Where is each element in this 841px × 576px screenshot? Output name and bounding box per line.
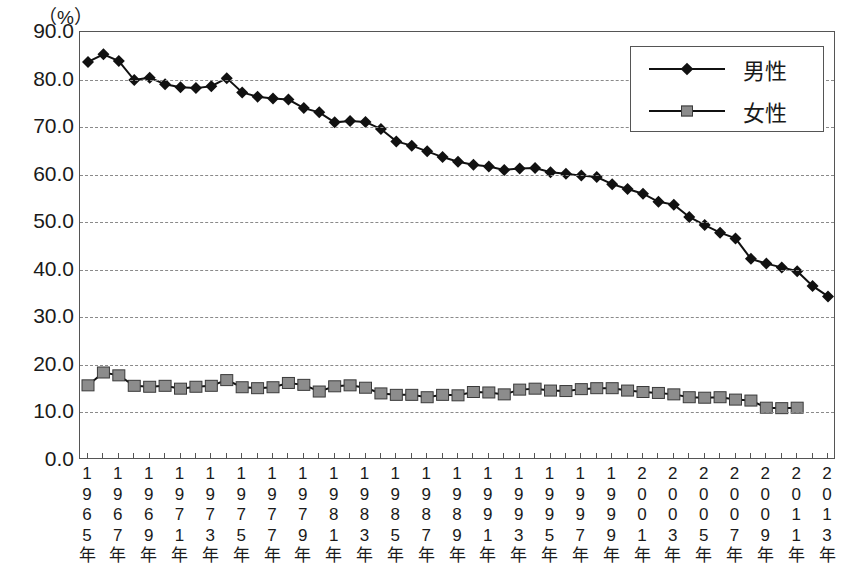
data-point-marker-diamond — [622, 183, 634, 195]
x-axis-tick-mark — [812, 453, 813, 459]
gridline — [80, 270, 834, 271]
legend-marker-diamond-icon — [645, 57, 729, 81]
x-axis-tick-mark — [411, 453, 412, 459]
x-axis-tick-label: 2 0 0 9 年 — [756, 464, 774, 567]
x-axis-tick-mark — [796, 453, 797, 459]
x-axis-tick-mark — [719, 453, 720, 459]
data-point-marker-square — [452, 390, 464, 401]
data-point-marker-diamond — [822, 290, 834, 302]
x-axis-tick-mark — [257, 453, 258, 459]
x-axis-tick-mark — [442, 453, 443, 459]
data-point-marker-square — [205, 380, 217, 391]
x-axis-tick-mark — [565, 453, 566, 459]
x-axis-tick-mark — [87, 453, 88, 459]
y-axis-tick-label: 90.0 — [2, 20, 74, 41]
legend-label-male: 男性 — [743, 53, 787, 85]
x-axis-tick-mark — [395, 453, 396, 459]
x-axis-tick-labels: 1 9 6 5 年1 9 6 7 年1 9 6 9 年1 9 7 1 年1 9 … — [79, 464, 835, 576]
y-axis-tick-label: 60.0 — [2, 163, 74, 184]
chart-container: （%） 0.010.020.030.040.050.060.070.080.09… — [0, 0, 841, 576]
data-point-marker-square — [375, 388, 387, 399]
data-point-marker-square — [144, 381, 156, 392]
data-point-marker-square — [159, 380, 171, 391]
x-axis-tick-mark — [226, 453, 227, 459]
data-point-marker-square — [313, 386, 325, 397]
x-axis-tick-mark — [503, 453, 504, 459]
data-point-marker-diamond — [190, 82, 202, 94]
gridline — [80, 317, 834, 318]
data-point-marker-diamond — [82, 56, 94, 68]
data-point-marker-square — [560, 386, 572, 397]
data-point-marker-diamond — [545, 166, 557, 178]
data-point-marker-square — [421, 392, 433, 403]
x-axis-tick-label: 1 9 9 9 年 — [602, 464, 620, 567]
data-point-marker-square — [236, 382, 248, 393]
data-point-marker-diamond — [267, 93, 279, 105]
x-axis-tick-label: 1 9 8 1 年 — [325, 464, 343, 567]
x-axis-tick-label: 2 0 1 1 年 — [787, 464, 805, 567]
data-point-marker-square — [652, 387, 664, 398]
x-axis-tick-mark — [534, 453, 535, 459]
x-axis-tick-mark — [704, 453, 705, 459]
x-axis-tick-mark — [611, 453, 612, 459]
x-axis-tick-mark — [657, 453, 658, 459]
y-axis-tick-label: 50.0 — [2, 210, 74, 231]
data-point-marker-square — [483, 387, 495, 398]
x-axis-tick-marks — [79, 453, 835, 459]
x-axis-tick-mark — [318, 453, 319, 459]
x-axis-tick-label: 2 0 0 1 年 — [633, 464, 651, 567]
x-axis-tick-mark — [688, 453, 689, 459]
x-axis-tick-mark — [180, 453, 181, 459]
data-point-marker-diamond — [760, 258, 772, 270]
data-point-marker-square — [745, 395, 757, 406]
data-point-marker-diamond — [514, 162, 526, 174]
data-point-marker-square — [406, 389, 418, 400]
x-axis-tick-mark — [519, 453, 520, 459]
data-point-marker-square — [221, 375, 233, 386]
data-point-marker-diamond — [606, 178, 618, 190]
chart-legend: 男性 女性 — [630, 46, 824, 132]
x-axis-tick-mark — [102, 453, 103, 459]
x-axis-tick-label: 2 0 0 7 年 — [726, 464, 744, 567]
data-point-marker-square — [467, 387, 479, 398]
data-point-marker-square — [344, 380, 356, 391]
data-point-marker-diamond — [714, 227, 726, 239]
x-axis-tick-mark — [472, 453, 473, 459]
x-axis-tick-label: 1 9 7 7 年 — [263, 464, 281, 567]
x-axis-tick-mark — [195, 453, 196, 459]
data-point-marker-square — [82, 380, 94, 391]
data-point-marker-diamond — [637, 188, 649, 200]
x-axis-tick-mark — [627, 453, 628, 459]
legend-label-female: 女性 — [743, 95, 787, 127]
data-point-marker-diamond — [776, 261, 788, 273]
x-axis-tick-mark — [118, 453, 119, 459]
data-point-marker-square — [529, 383, 541, 394]
data-point-marker-diamond — [298, 102, 310, 114]
data-point-marker-square — [190, 381, 202, 392]
data-point-marker-square — [390, 389, 402, 400]
x-axis-tick-label: 1 9 7 5 年 — [232, 464, 250, 567]
x-axis-tick-label: 1 9 8 3 年 — [356, 464, 374, 567]
data-point-marker-square — [699, 392, 711, 403]
x-axis-tick-mark — [210, 453, 211, 459]
data-point-marker-diamond — [144, 72, 156, 84]
x-axis-tick-mark — [334, 453, 335, 459]
x-axis-tick-mark — [241, 453, 242, 459]
y-axis-tick-label: 10.0 — [2, 400, 74, 421]
data-point-marker-diamond — [282, 94, 294, 106]
x-axis-tick-mark — [596, 453, 597, 459]
x-axis-tick-mark — [765, 453, 766, 459]
data-point-marker-square — [637, 387, 649, 398]
y-axis-tick-label: 70.0 — [2, 115, 74, 136]
x-axis-tick-mark — [365, 453, 366, 459]
data-point-marker-diamond — [175, 81, 187, 93]
data-point-marker-square — [329, 381, 341, 392]
data-point-marker-diamond — [313, 106, 325, 118]
data-point-marker-diamond — [652, 196, 664, 208]
x-axis-tick-mark — [133, 453, 134, 459]
x-axis-tick-label: 1 9 9 7 年 — [571, 464, 589, 567]
data-point-marker-square — [113, 370, 125, 381]
x-axis-tick-label: 1 9 8 7 年 — [417, 464, 435, 567]
x-axis-tick-label: 2 0 0 5 年 — [695, 464, 713, 567]
data-point-marker-diamond — [529, 162, 541, 174]
